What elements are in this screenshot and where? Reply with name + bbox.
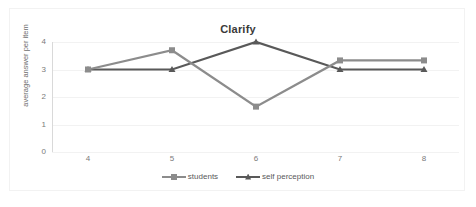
plot-area	[10, 9, 466, 192]
legend-label-students: students	[188, 172, 218, 181]
legend-item-students[interactable]: students	[162, 172, 218, 181]
series-students	[85, 47, 427, 109]
legend-label-self-perception: self perception	[262, 172, 314, 181]
chart-container: Clarify average answer per item 4 3 2 1 …	[0, 0, 476, 207]
legend-swatch-self-perception-icon	[236, 172, 260, 181]
legend-item-self-perception[interactable]: self perception	[236, 172, 314, 181]
chart-plot-frame: Clarify average answer per item 4 3 2 1 …	[9, 8, 465, 191]
series-self-perception	[85, 39, 428, 73]
chart-legend: students self perception	[10, 172, 466, 181]
legend-swatch-students-icon	[162, 172, 186, 181]
